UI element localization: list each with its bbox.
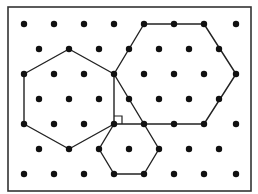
lattice-dot: [21, 71, 27, 77]
lattice-dot: [201, 21, 207, 27]
lattice-dot: [186, 96, 192, 102]
lattice-dot: [81, 21, 87, 27]
lattice-dot: [233, 21, 239, 27]
lattice-dot: [141, 121, 147, 127]
lattice-dot: [66, 146, 72, 152]
lattice-dot: [126, 46, 132, 52]
lattice-dot: [156, 96, 162, 102]
lattice-dot: [51, 21, 57, 27]
lattice-dot: [201, 71, 207, 77]
lattice-dot: [141, 21, 147, 27]
lattice-dot: [201, 121, 207, 127]
lattice-dot: [51, 171, 57, 177]
lattice-dot: [21, 21, 27, 27]
lattice-dot: [141, 71, 147, 77]
lattice-dot: [111, 121, 117, 127]
lattice-dots: [21, 21, 239, 177]
lattice-dot: [96, 46, 102, 52]
lattice-dot: [51, 121, 57, 127]
lattice-dot: [126, 96, 132, 102]
lattice-dot: [233, 71, 239, 77]
lattice-dot: [233, 121, 239, 127]
lattice-dot: [81, 71, 87, 77]
lattice-dot: [36, 96, 42, 102]
lattice-dot: [171, 171, 177, 177]
lattice-dot: [171, 21, 177, 27]
lattice-dot: [111, 71, 117, 77]
lattice-dot: [216, 146, 222, 152]
lattice-dot: [36, 46, 42, 52]
lattice-dot: [111, 21, 117, 27]
lattice-dot: [156, 146, 162, 152]
lattice-dot: [66, 46, 72, 52]
lattice-dot: [201, 171, 207, 177]
lattice-dot: [111, 171, 117, 177]
lattice-dot: [51, 71, 57, 77]
lattice-dot: [81, 121, 87, 127]
lattice-dot: [96, 146, 102, 152]
lattice-dot: [156, 46, 162, 52]
lattice-dot: [171, 121, 177, 127]
lattice-dot: [66, 96, 72, 102]
lattice-dot: [216, 96, 222, 102]
lattice-dot: [171, 71, 177, 77]
lattice-dot: [216, 46, 222, 52]
lattice-dot: [141, 171, 147, 177]
lattice-dot: [96, 96, 102, 102]
lattice-dot: [81, 171, 87, 177]
lattice-dot: [186, 46, 192, 52]
lattice-dot: [126, 146, 132, 152]
lattice-dot: [233, 171, 239, 177]
lattice-dot: [21, 121, 27, 127]
lattice-dot: [186, 146, 192, 152]
lattice-diagram: [0, 0, 258, 194]
lattice-dot: [36, 146, 42, 152]
lattice-dot: [21, 171, 27, 177]
